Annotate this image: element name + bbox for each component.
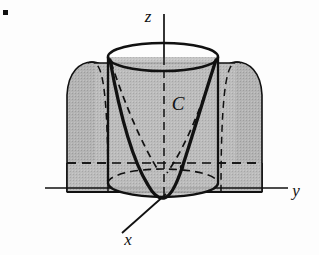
figure-container: z y x C bbox=[0, 0, 319, 255]
axis-label-y: y bbox=[290, 181, 300, 200]
curve-origin-node bbox=[180, 165, 185, 170]
corner-dot-icon bbox=[3, 10, 8, 15]
axis-label-z: z bbox=[144, 7, 152, 26]
math-figure-svg: z y x C bbox=[0, 0, 319, 255]
curve-label-C: C bbox=[172, 93, 185, 114]
axis-line-x bbox=[122, 194, 166, 233]
axis-label-x: x bbox=[123, 230, 132, 249]
